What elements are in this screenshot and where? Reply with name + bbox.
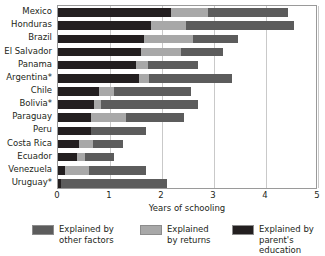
bar-segment	[85, 153, 114, 162]
legend-item[interactable]: Explained by parent's education	[232, 224, 325, 256]
legend-label: Explained by parent's education	[259, 224, 325, 256]
legend-label: Explained by returns	[167, 224, 211, 245]
bar-segment	[193, 35, 238, 44]
bar-segment	[149, 74, 232, 83]
chart-legend: Explained by other factorsExplained by r…	[0, 222, 325, 251]
bar-row	[58, 21, 316, 30]
bar-row	[58, 74, 316, 83]
bar-segment	[91, 127, 146, 136]
bar-segment	[171, 8, 208, 17]
bar-segment	[58, 8, 171, 17]
bar-segment	[65, 166, 89, 175]
y-axis-label: Brazil	[28, 33, 52, 42]
gridline-5	[318, 6, 319, 188]
bar-row	[58, 100, 316, 109]
bar-segment	[58, 87, 99, 96]
bar-segment	[58, 127, 91, 136]
bar-segment	[136, 61, 148, 70]
bar-row	[58, 153, 316, 162]
bar-row	[58, 35, 316, 44]
plot-area	[57, 5, 317, 189]
x-tick-label: 2	[158, 190, 163, 200]
bar-segment	[151, 21, 186, 30]
bar-segment	[58, 48, 141, 57]
bar-row	[58, 87, 316, 96]
bar-segment	[186, 21, 294, 30]
bar-segment	[58, 35, 144, 44]
y-axis-label: Honduras	[11, 20, 52, 29]
y-axis-label: Uruguay*	[12, 178, 52, 187]
bar-segment	[58, 113, 91, 122]
y-axis-label: Peru	[33, 125, 52, 134]
x-axis-title: Years of schooling	[57, 203, 317, 213]
y-axis-label: Panama	[18, 60, 52, 69]
bar-row	[58, 166, 316, 175]
bar-segment	[58, 100, 94, 109]
bar-segment	[61, 179, 167, 188]
bar-segment	[58, 61, 136, 70]
x-axis-ticks: 012345	[57, 190, 317, 202]
legend-swatch-other-factors	[32, 225, 54, 235]
legend-swatch-parents-education	[232, 225, 254, 235]
bar-segment	[58, 166, 65, 175]
bar-segment	[93, 140, 123, 149]
y-axis-label: Costa Rica	[7, 139, 52, 148]
bar-segment	[58, 153, 77, 162]
bar-segment	[99, 87, 114, 96]
bar-segment	[77, 153, 85, 162]
x-tick-label: 5	[314, 190, 319, 200]
bar-segment	[91, 113, 126, 122]
bar-segment	[114, 87, 191, 96]
bar-row	[58, 179, 316, 188]
y-axis-label: Ecuador	[17, 152, 52, 161]
bar-segment	[141, 48, 181, 57]
y-axis-label: Mexico	[22, 7, 52, 16]
bar-segment	[94, 100, 101, 109]
bar-segment	[58, 21, 151, 30]
bar-segment	[79, 140, 93, 149]
x-tick-label: 1	[106, 190, 111, 200]
y-axis-label: Paraguay	[12, 112, 52, 121]
bar-row	[58, 48, 316, 57]
bar-segment	[144, 35, 193, 44]
bar-rows	[58, 6, 316, 188]
bar-segment	[58, 74, 139, 83]
x-tick-label: 0	[54, 190, 59, 200]
y-axis-label: El Salvador	[4, 47, 52, 56]
y-axis-label: Chile	[31, 86, 52, 95]
y-axis-label: Argentina*	[6, 73, 52, 82]
y-axis-label: Bolivia*	[19, 99, 52, 108]
bar-segment	[139, 74, 149, 83]
legend-item[interactable]: Explained by returns	[140, 224, 211, 245]
bar-segment	[126, 113, 184, 122]
y-axis-labels: MexicoHondurasBrazilEl SalvadorPanamaArg…	[0, 5, 55, 189]
x-tick-label: 4	[262, 190, 267, 200]
bar-segment	[89, 166, 146, 175]
bar-row	[58, 61, 316, 70]
bar-segment	[58, 140, 79, 149]
legend-swatch-returns	[140, 225, 162, 235]
bar-segment	[181, 48, 223, 57]
x-tick-label: 3	[210, 190, 215, 200]
bar-segment	[148, 61, 198, 70]
legend-item[interactable]: Explained by other factors	[32, 224, 114, 245]
bar-row	[58, 113, 316, 122]
bar-segment	[101, 100, 198, 109]
bar-row	[58, 127, 316, 136]
legend-label: Explained by other factors	[59, 224, 114, 245]
bar-segment	[208, 8, 288, 17]
y-axis-label: Venezuela	[8, 165, 52, 174]
bar-row	[58, 140, 316, 149]
bar-row	[58, 8, 316, 17]
